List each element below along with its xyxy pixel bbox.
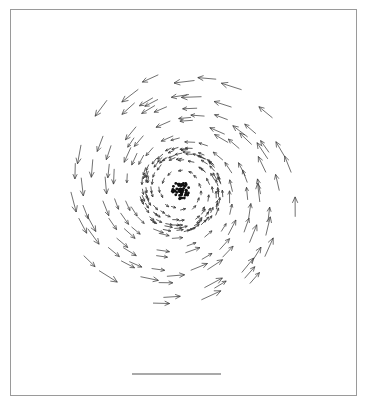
vector-arrow [150, 186, 152, 193]
vector-arrow [216, 180, 219, 186]
vector-arrow [108, 247, 119, 256]
vector-arrow [152, 268, 165, 272]
vector-arrow [251, 247, 261, 263]
vector-arrow [215, 191, 217, 198]
vector-arrow [191, 114, 205, 118]
vector-arrow [175, 153, 182, 155]
vector-arrow [84, 256, 95, 267]
vector-arrow [201, 209, 205, 214]
vector-arrow [156, 121, 170, 127]
vector-arrow [122, 89, 139, 102]
vector-arrow [245, 267, 255, 279]
vector-arrow [163, 294, 180, 299]
vector-arrow [200, 156, 207, 159]
vector-arrow [221, 82, 241, 89]
vector-arrow [141, 277, 159, 282]
vector-arrow [142, 75, 158, 82]
vector-arrow [211, 207, 214, 213]
vector-arrow [185, 247, 200, 253]
vector-arrow [200, 191, 202, 195]
vector-arrow [172, 147, 179, 149]
vector-arrow [245, 124, 256, 134]
vector-arrow [229, 180, 233, 192]
vector-arrow [218, 198, 220, 204]
vector-arrow [207, 260, 222, 270]
vector-arrow [159, 233, 169, 236]
vortex-core [171, 182, 190, 200]
vector-arrow [228, 191, 231, 203]
vector-arrow [189, 172, 193, 174]
vector-arrow [184, 230, 190, 232]
vector-arrow [174, 227, 181, 229]
vector-arrow [242, 170, 247, 183]
vector-arrow [142, 106, 155, 114]
vector-arrow [195, 216, 199, 220]
vector-arrow [106, 164, 110, 178]
vector-arrow [180, 208, 186, 210]
vector-arrow [152, 158, 157, 164]
vector-arrow [187, 243, 196, 247]
vector-arrow [138, 217, 144, 223]
vector-arrow [156, 220, 162, 223]
vector-arrow [185, 147, 192, 149]
vector-arrow [163, 229, 171, 231]
vector-arrow [140, 197, 142, 202]
vector-arrow [183, 107, 198, 111]
vector-arrow [202, 253, 212, 259]
vector-arrow [192, 206, 196, 210]
vector-arrow [73, 163, 77, 179]
vector-arrow [198, 76, 216, 81]
vector-arrow [146, 165, 149, 171]
vector-arrow [214, 281, 226, 288]
vector-arrow [207, 195, 209, 202]
vector-arrow [197, 198, 199, 203]
vector-arrow [95, 100, 107, 116]
vector-arrow [228, 220, 236, 235]
vector-arrow [121, 261, 135, 268]
vector-arrow [183, 151, 191, 153]
vector-arrow [250, 225, 258, 243]
vector-arrow [161, 211, 165, 214]
vector-arrow [248, 204, 252, 219]
vector-arrow [106, 145, 111, 159]
vector-arrow [168, 151, 174, 153]
vector-arrow [223, 246, 234, 257]
vector-arrow [204, 278, 222, 288]
vector-arrow [179, 219, 184, 221]
vector-arrow [104, 177, 109, 194]
vector-arrow [216, 208, 219, 215]
vector-arrow [205, 231, 213, 237]
vector-arrow [178, 169, 182, 171]
vector-arrow [153, 172, 155, 177]
vector-arrow [185, 141, 195, 144]
vector-arrow [126, 174, 129, 183]
vector-arrow [122, 103, 135, 115]
vector-arrow [112, 169, 116, 184]
vector-arrow [250, 273, 260, 284]
vector-arrow [71, 192, 77, 212]
vector-arrow [215, 135, 229, 143]
vector-arrow [157, 165, 161, 171]
vector-arrow [99, 271, 117, 283]
vector-arrow [174, 79, 195, 85]
vector-arrow [240, 133, 252, 145]
vector-arrow [162, 178, 164, 184]
vector-arrow [124, 147, 131, 162]
vector-arrow [201, 220, 206, 225]
vector-arrow [103, 201, 109, 216]
vector-arrow [165, 204, 169, 207]
vector-arrow [145, 99, 158, 106]
vector-arrow [201, 168, 206, 172]
vector-arrow [142, 189, 144, 195]
vector-arrow [109, 218, 117, 230]
vector-arrow [117, 238, 128, 247]
vector-arrow [207, 178, 210, 185]
vector-arrow [157, 249, 170, 252]
vector-arrow [146, 147, 153, 155]
vector-arrow [285, 156, 292, 172]
vector-arrow [97, 136, 103, 152]
vector-arrow [266, 217, 272, 236]
vector-arrow [228, 139, 239, 149]
vector-arrow [134, 136, 143, 147]
vector-arrow [265, 238, 273, 257]
